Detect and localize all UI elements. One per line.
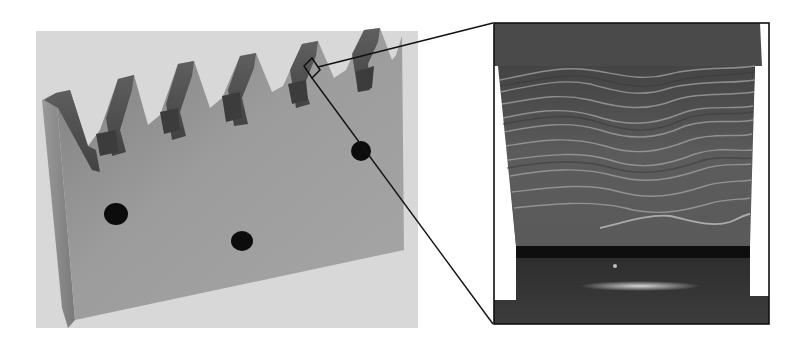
inset-speck [613,264,617,268]
inset-glare [580,281,700,291]
marker-dot-1 [104,203,128,225]
figure [0,0,805,344]
specimen-photo-panel [36,28,418,328]
figure-canvas [0,0,805,344]
marker-dot-2 [231,231,253,251]
magnified-inset [494,23,769,324]
inset-base [494,258,769,324]
inset-dark-gap [516,246,750,260]
